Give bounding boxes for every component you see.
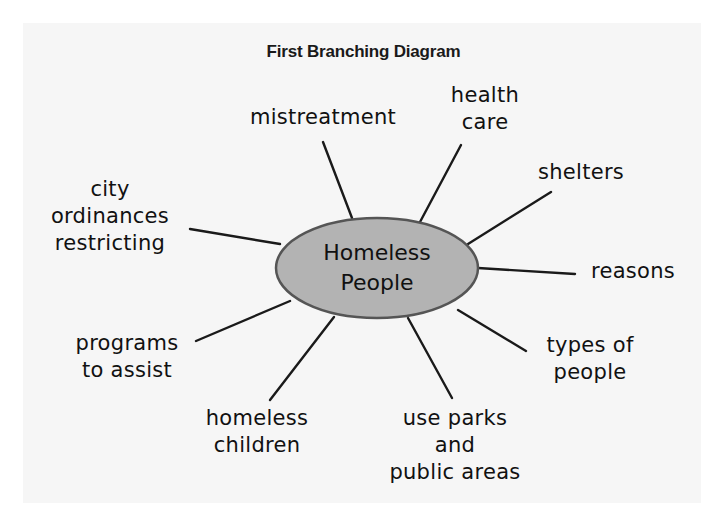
spoke-mistreatment bbox=[323, 142, 352, 218]
spoke-health-care bbox=[420, 145, 461, 222]
branch-health-care: health care bbox=[430, 82, 540, 136]
branch-line: public areas bbox=[380, 459, 530, 486]
branch-line: and bbox=[380, 432, 530, 459]
branch-line: health bbox=[430, 82, 540, 109]
branch-mistreatment: mistreatment bbox=[218, 104, 428, 131]
spoke-reasons bbox=[478, 268, 575, 274]
branch-use-parks: use parks and public areas bbox=[380, 405, 530, 486]
branch-line: programs bbox=[62, 330, 192, 357]
branch-line: shelters bbox=[516, 159, 646, 186]
branch-programs-to-assist: programs to assist bbox=[62, 330, 192, 384]
branch-line: restricting bbox=[30, 230, 190, 257]
branch-types-of-people: types of people bbox=[530, 332, 650, 386]
branch-line: children bbox=[192, 432, 322, 459]
branch-line: care bbox=[430, 109, 540, 136]
branch-line: city bbox=[30, 176, 190, 203]
spoke-use-parks bbox=[408, 318, 452, 398]
spoke-programs-to-assist bbox=[196, 301, 290, 341]
center-line: People bbox=[276, 268, 478, 298]
branch-line: use parks bbox=[380, 405, 530, 432]
branch-line: people bbox=[530, 359, 650, 386]
branch-line: types of bbox=[530, 332, 650, 359]
branch-line: mistreatment bbox=[218, 104, 428, 131]
branch-line: homeless bbox=[192, 405, 322, 432]
branch-city-ordinances: city ordinances restricting bbox=[30, 176, 190, 257]
spoke-types-of-people bbox=[458, 310, 526, 351]
branch-shelters: shelters bbox=[516, 159, 646, 186]
center-node-label: Homeless People bbox=[276, 238, 478, 298]
branch-line: reasons bbox=[580, 258, 686, 285]
spoke-shelters bbox=[468, 192, 551, 244]
branch-reasons: reasons bbox=[580, 258, 686, 285]
branch-homeless-children: homeless children bbox=[192, 405, 322, 459]
spoke-homeless-children bbox=[270, 317, 334, 400]
branch-line: ordinances bbox=[30, 203, 190, 230]
branch-line: to assist bbox=[62, 357, 192, 384]
center-line: Homeless bbox=[276, 238, 478, 268]
spoke-city-ordinances bbox=[190, 229, 280, 244]
